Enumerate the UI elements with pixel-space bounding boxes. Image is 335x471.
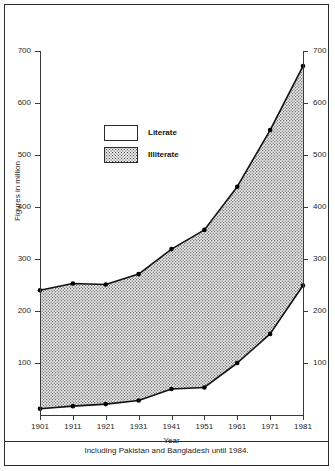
marker-literate-1971 [268,332,273,337]
legend-label-illiterate: Illiterate [148,151,179,159]
y-label-left-200: 200 [5,307,31,315]
marker-literate-1961 [235,361,240,366]
legend-swatch-literate [104,125,138,141]
y-tick-left-400 [35,207,40,208]
y-axis-right [303,51,304,415]
y-tick-right-100 [303,363,308,364]
x-tick-1901 [40,415,41,420]
x-tick-1971 [270,415,271,420]
x-label-1951: 1951 [187,423,221,431]
plot-area: 100200300400500600700 100200300400500600… [40,51,303,415]
y-tick-left-100 [35,363,40,364]
y-tick-right-500 [303,155,308,156]
marker-literate-1931 [136,398,141,403]
y-tick-right-700 [303,51,308,52]
legend-label-literate: Literate [148,129,177,137]
x-label-1931: 1931 [122,423,156,431]
marker-total-1911 [71,281,76,286]
marker-total-1921 [103,282,108,287]
marker-total-1951 [202,228,207,233]
y-label-right-700: 700 [313,47,335,55]
y-label-left-300: 300 [5,255,31,263]
y-axis-title: Figures in million [14,131,22,221]
x-label-1961: 1961 [220,423,254,431]
x-label-1911: 1911 [56,423,90,431]
marker-literate-1921 [103,402,108,407]
x-tick-1911 [73,415,74,420]
x-tick-1961 [237,415,238,420]
x-label-1941: 1941 [155,423,189,431]
y-tick-left-300 [35,259,40,260]
x-label-1921: 1921 [89,423,123,431]
marker-total-1961 [235,184,240,189]
y-label-left-700: 700 [5,47,31,55]
y-tick-right-600 [303,103,308,104]
x-tick-1941 [172,415,173,420]
footnote-divider [5,441,328,442]
x-tick-1921 [106,415,107,420]
y-tick-left-600 [35,103,40,104]
x-tick-1931 [139,415,140,420]
y-label-right-500: 500 [313,151,335,159]
x-tick-1951 [204,415,205,420]
y-tick-right-400 [303,207,308,208]
marker-total-1931 [136,272,141,277]
y-label-right-200: 200 [313,307,335,315]
marker-total-1941 [169,247,174,252]
footnote: Including Pakistan and Bangladesh until … [10,446,323,455]
y-label-left-600: 600 [5,99,31,107]
y-label-right-400: 400 [313,203,335,211]
x-tick-1981 [303,415,304,420]
x-label-1981: 1981 [286,423,320,431]
y-label-right-300: 300 [313,255,335,263]
y-tick-left-700 [35,51,40,52]
y-label-left-100: 100 [5,359,31,367]
marker-literate-1941 [169,387,174,392]
marker-literate-1951 [202,385,207,390]
marker-total-1971 [268,128,273,133]
y-axis-left [40,51,41,415]
y-label-right-600: 600 [313,99,335,107]
y-label-right-100: 100 [313,359,335,367]
y-tick-right-300 [303,259,308,260]
y-tick-left-200 [35,311,40,312]
legend-swatch-illiterate [104,147,138,163]
marker-literate-1911 [71,404,76,409]
chart-page: 100200300400500600700 100200300400500600… [0,0,335,471]
x-label-1971: 1971 [253,423,287,431]
y-tick-right-200 [303,311,308,312]
x-label-1901: 1901 [23,423,57,431]
chart-canvas [40,51,303,415]
y-tick-left-500 [35,155,40,156]
